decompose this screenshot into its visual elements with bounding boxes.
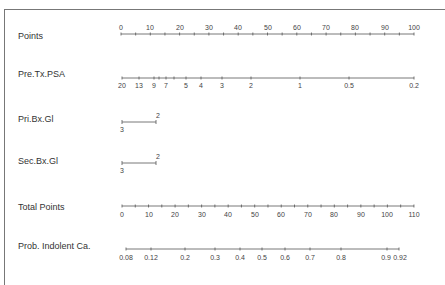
pri-low-label: 3 [120,126,124,133]
psa-tick-label: 5 [184,82,188,89]
points-tick-label: 50 [264,24,272,31]
prob-tick-label: 0.4 [235,254,245,261]
total-tick-label: 80 [330,211,338,218]
total-tick-label: 20 [171,211,179,218]
prob-tick-label: 0.12 [144,254,158,261]
prob-tick-label: 0.2 [180,254,190,261]
points-tick-label: 60 [293,24,301,31]
psa-tick-label: 4 [199,82,203,89]
points-tick-label: 100 [408,24,420,31]
prob-tick-label: 0.7 [305,254,315,261]
total-tick-label: 10 [145,211,153,218]
total-tick-label: 70 [304,211,312,218]
total-tick-label: 60 [277,211,285,218]
prob-tick-label: 0.92 [393,254,407,261]
total-tick-label: 100 [381,211,393,218]
psa-tick-label: 0.5 [344,82,354,89]
psa-tick-label: 13 [135,82,143,89]
prob-tick-label: 0.6 [280,254,290,261]
points-tick-label: 70 [322,24,330,31]
points-tick-label: 20 [176,24,184,31]
prob-tick-label: 0.9 [381,254,391,261]
total-tick-label: 30 [198,211,206,218]
points-tick-label: 0 [119,24,123,31]
total-tick-label: 110 [408,211,419,218]
psa-tick-label: 3 [220,82,224,89]
total-tick-label: 90 [357,211,365,218]
prob-tick-label: 0.08 [119,254,133,261]
total-tick-label: 0 [120,211,124,218]
points-tick-label: 90 [381,24,389,31]
points-tick-label: 30 [205,24,213,31]
prob-tick-label: 0.8 [336,254,346,261]
psa-tick-label: 7 [164,82,168,89]
psa-tick-label: 2 [249,82,253,89]
psa-tick-label: 0.2 [409,82,419,89]
total-tick-label: 50 [251,211,259,218]
psa-tick-label: 1 [298,82,302,89]
psa-tick-label: 20 [118,82,126,89]
psa-tick-label: 9 [152,82,156,89]
pri-high-label: 2 [156,112,160,119]
sec-high-label: 2 [156,153,160,160]
points-tick-label: 80 [351,24,359,31]
prob-tick-label: 0.5 [257,254,267,261]
prob-tick-label: 0.3 [210,254,220,261]
sec-low-label: 3 [120,167,124,174]
total-tick-label: 40 [224,211,232,218]
points-tick-label: 40 [234,24,242,31]
points-tick-label: 10 [146,24,154,31]
